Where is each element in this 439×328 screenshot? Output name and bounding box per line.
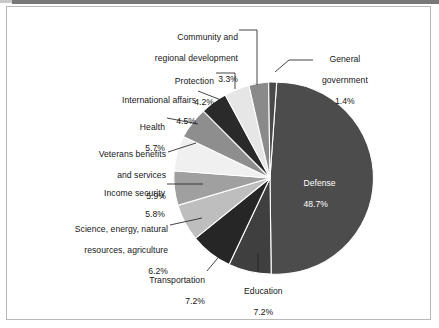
- label-general-government-line1: General: [329, 54, 360, 64]
- label-defense-pct: 48.7%: [304, 199, 328, 209]
- label-education-line1: Education: [244, 286, 283, 296]
- label-education: Education 7.2%: [222, 276, 295, 328]
- label-general-government: General government 1.4%: [285, 44, 395, 117]
- pie-chart-screenshot: Community and regional development 3.3% …: [0, 0, 439, 328]
- label-protection-pct: 4.2%: [194, 97, 214, 107]
- label-international-affairs-line1: International affairs: [122, 95, 196, 105]
- label-defense: Defense 48.7%: [294, 167, 364, 220]
- leader-line-community: [239, 30, 257, 85]
- label-community-pct: 3.3%: [218, 74, 238, 84]
- label-transportation-pct: 7.2%: [185, 296, 205, 306]
- label-general-government-pct: 1.4%: [335, 96, 355, 106]
- label-defense-line1: Defense: [304, 178, 336, 188]
- label-education-pct: 7.2%: [253, 307, 273, 317]
- label-community-line2: regional development: [155, 53, 238, 63]
- label-general-government-line2: government: [322, 75, 368, 85]
- label-health-line1: Health: [140, 122, 165, 132]
- label-income-security-line1: Income security: [104, 188, 165, 198]
- label-community-line1: Community and: [177, 32, 238, 42]
- label-international-affairs-pct: 4.5%: [176, 116, 196, 126]
- label-science-line1: Science, energy, natural: [75, 224, 168, 234]
- label-science-line2: resources, agriculture: [84, 245, 168, 255]
- label-veterans-line1: Veterans benefits: [99, 149, 166, 159]
- label-transportation-line1: Transportation: [149, 275, 205, 285]
- label-transportation: Transportation 7.2%: [103, 265, 205, 317]
